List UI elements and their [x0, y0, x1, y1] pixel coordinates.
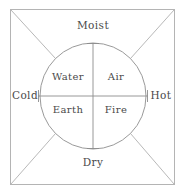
elements-diagram: Moist Cold Hot Dry Water Air Earth Fire — [0, 0, 186, 196]
label-moist: Moist — [0, 20, 186, 31]
label-dry: Dry — [0, 157, 186, 168]
label-water: Water — [44, 71, 92, 82]
diagonal-top-left — [11, 10, 56, 59]
label-cold: Cold — [10, 90, 40, 101]
label-earth: Earth — [44, 104, 92, 115]
label-hot: Hot — [146, 90, 176, 101]
label-fire: Fire — [94, 104, 138, 115]
diagonal-top-right — [131, 10, 175, 59]
label-air: Air — [94, 71, 138, 82]
